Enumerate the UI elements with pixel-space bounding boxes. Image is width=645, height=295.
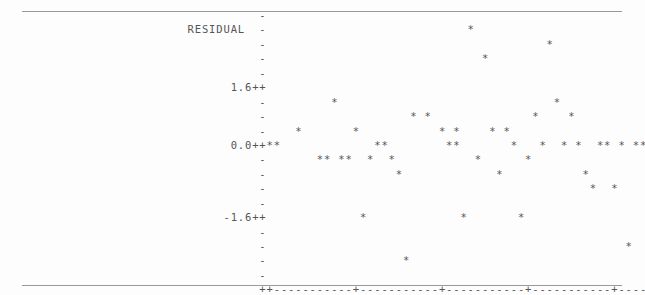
plot-row: - * (8, 239, 645, 253)
character-scatter-plot: - RESIDUAL - * - * - (0, 6, 645, 272)
plot-row: - ** ** * * * * (8, 152, 645, 166)
plot-row: RESIDUAL - * (8, 22, 645, 36)
plot-row: -1.6++ * * * * (8, 210, 645, 224)
plot-row: - (8, 66, 645, 80)
plot-row: - (8, 196, 645, 210)
screenshot-page: - RESIDUAL - * - * - (0, 0, 645, 295)
plot-row: - * * * (8, 95, 645, 109)
plot-row: - (8, 8, 645, 22)
plot-row: - * (8, 37, 645, 51)
plot-row: - (8, 268, 645, 282)
plot-row: - * (8, 51, 645, 65)
plot-row: - * * * * * * ** (8, 124, 645, 138)
plot-row: - * * * * (8, 181, 645, 195)
plot-row: - * * * * * * (8, 109, 645, 123)
plot-row: - (8, 225, 645, 239)
plot-row: - * (8, 253, 645, 267)
plot-row: - * * * (8, 167, 645, 181)
plot-row: 0.0++** ** ** * * * * ** * ** ** (8, 138, 645, 152)
bottom-divider (22, 285, 622, 286)
ascii-plot-canvas: - RESIDUAL - * - * - (8, 8, 645, 295)
plot-row: 1.6++ * * * (8, 80, 645, 94)
